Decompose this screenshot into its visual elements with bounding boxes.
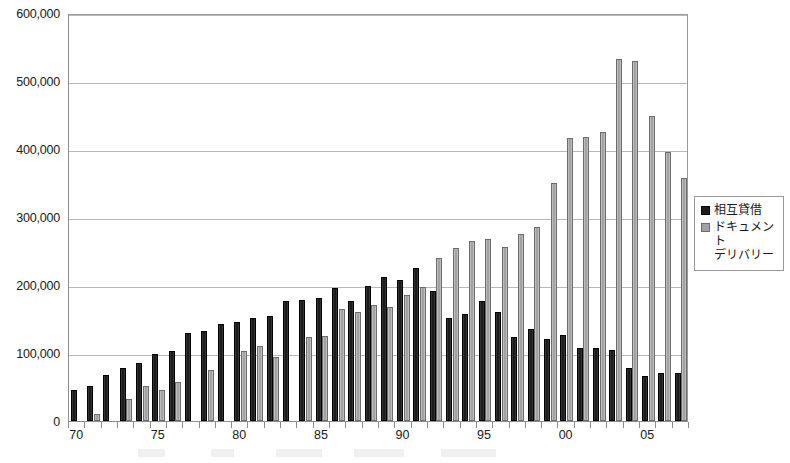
y-tick-label: 600,000 [16,7,60,21]
bar-group [297,15,313,421]
bar [397,280,403,421]
bar [283,301,289,421]
bar [626,368,632,421]
plot-area [68,14,688,422]
bar-group [510,15,526,421]
bar [518,234,524,421]
legend-label-1: ドキュメント デリバリー [714,220,778,262]
bar [511,337,517,421]
bar [218,324,224,421]
bar-group [575,15,591,421]
bar-group [640,15,656,421]
bar-group [673,15,688,421]
bar [502,247,508,421]
legend: 相互貸借 ドキュメント デリバリー [694,196,784,271]
legend-swatch-document-delivery [701,223,710,232]
bar [152,354,158,421]
bar [665,152,671,421]
bar [355,312,361,421]
bar-chart: 0100,000200,000300,000400,000500,000600,… [0,0,790,463]
bar [94,414,100,421]
legend-label-0: 相互貸借 [714,203,762,217]
bar [208,370,214,421]
bar [371,305,377,421]
bar-group [265,15,281,421]
bar [316,298,322,421]
bar [387,307,393,421]
x-tick [688,422,689,428]
bar [681,178,687,421]
bar [616,59,622,421]
bar-group [183,15,199,421]
x-tick-label: 80 [232,428,246,442]
bar-group [134,15,150,421]
bar-group [477,15,493,421]
bar [544,339,550,421]
bar-group [526,15,542,421]
bar-group [102,15,118,421]
bar [332,288,338,421]
bar [273,357,279,421]
bar [469,241,475,421]
x-tick-label: 00 [559,428,573,442]
y-tick-label: 400,000 [16,143,60,157]
bar [250,318,256,421]
bar-group [461,15,477,421]
bar-group [118,15,134,421]
bar [241,351,247,421]
bar-group [151,15,167,421]
y-tick-label: 300,000 [16,211,60,225]
bar [453,248,459,421]
bar [201,331,207,421]
x-tick-label: 90 [396,428,410,442]
bar-group [607,15,623,421]
legend-item-1: ドキュメント デリバリー [701,220,778,262]
bar-group [428,15,444,421]
bar [299,300,305,421]
bar [583,137,589,421]
legend-item-0: 相互貸借 [701,203,778,217]
legend-swatch-soguotaishaku [701,206,710,215]
bar [381,277,387,421]
bar [528,329,534,421]
bar [175,382,181,421]
bar-group [330,15,346,421]
bar-group [346,15,362,421]
x-tick-label: 95 [477,428,491,442]
bar-group [624,15,640,421]
bar [649,116,655,421]
bar [306,337,312,421]
bar-group [395,15,411,421]
bar [567,138,573,421]
bar [609,350,615,421]
bar-group [444,15,460,421]
bar [420,287,426,421]
bar [534,227,540,421]
x-tick-label: 05 [640,428,654,442]
bar [339,309,345,421]
bar [495,312,501,421]
bar-group [216,15,232,421]
bar [632,61,638,421]
bar-group [167,15,183,421]
y-tick-label: 200,000 [16,279,60,293]
bar-group [542,15,558,421]
bar-group [232,15,248,421]
bar-group [248,15,264,421]
bar [126,399,132,421]
bar [551,183,557,421]
bar [658,373,664,421]
bar [257,346,263,421]
bar [600,132,606,421]
scan-artifact [110,449,570,457]
bar [446,318,452,421]
bar-group [412,15,428,421]
bar [185,333,191,421]
bar-group [281,15,297,421]
bar [365,286,371,421]
bar-group [314,15,330,421]
bar [577,348,583,421]
bar [560,335,566,421]
y-tick-label: 500,000 [16,75,60,89]
bar-group [85,15,101,421]
